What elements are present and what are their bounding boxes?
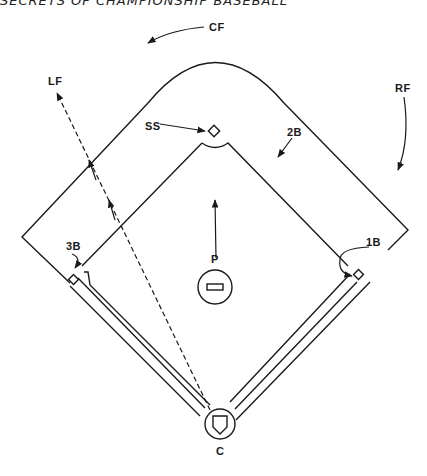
pitchers-mound	[198, 270, 232, 304]
pitcher-arrow	[215, 200, 216, 258]
third-base-arrow	[72, 254, 78, 268]
label-p: P	[211, 253, 219, 265]
home-plate-icon	[213, 416, 227, 434]
ss-arrow	[160, 124, 205, 131]
pitching-rubber	[207, 284, 223, 290]
label-1b: 1B	[366, 236, 381, 248]
label-lf: LF	[48, 75, 62, 87]
cf-arrow	[148, 27, 204, 43]
label-c: C	[216, 445, 224, 457]
first-base-icon	[354, 270, 364, 280]
third-base-foul-line	[70, 272, 210, 416]
second-base-icon	[208, 125, 219, 136]
label-rf: RF	[395, 82, 411, 94]
label-cf: CF	[209, 21, 225, 33]
rf-arrow	[398, 97, 406, 170]
baseball-field-diagram: CF LF RF SS 2B 3B 1B P C	[0, 0, 427, 476]
first-base-foul-line	[230, 274, 370, 420]
lf-lower-arrow	[109, 200, 115, 220]
label-3b: 3B	[66, 240, 81, 252]
third-base-icon	[69, 275, 79, 285]
second-base-arrow	[278, 138, 292, 157]
label-ss: SS	[145, 120, 161, 132]
label-2b: 2B	[287, 126, 302, 138]
